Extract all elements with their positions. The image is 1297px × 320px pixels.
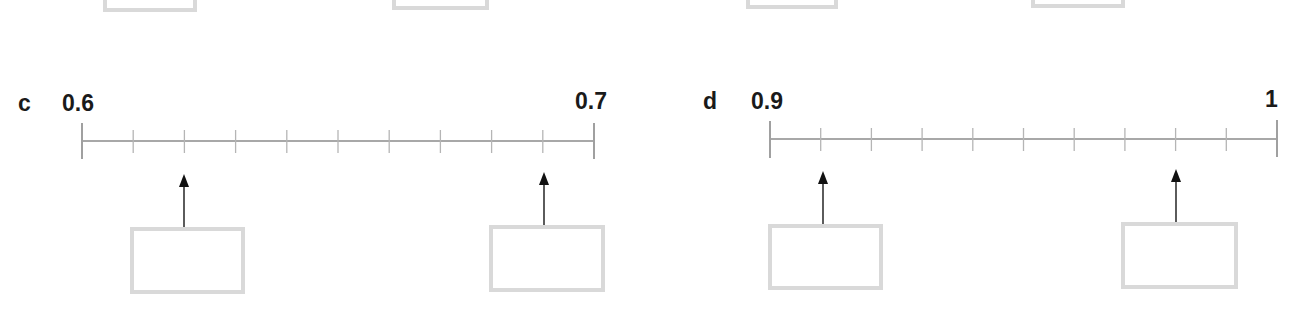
answer-box-c-1[interactable] [130, 227, 245, 294]
number-line-d [770, 120, 1277, 158]
number-line-c [82, 123, 594, 159]
arrow-icon [1171, 169, 1181, 222]
answer-box-c-2[interactable] [489, 225, 605, 292]
arrow-icon [179, 174, 189, 227]
arrow-icon [818, 171, 828, 224]
arrow-icon [539, 172, 549, 225]
answer-box-d-2[interactable] [1121, 222, 1238, 289]
answer-box-d-1[interactable] [768, 224, 883, 290]
